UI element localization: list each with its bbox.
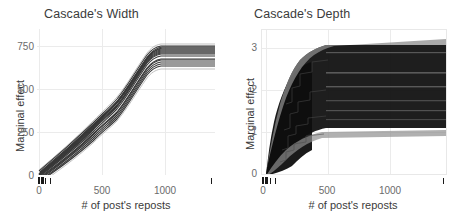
y-tick-label: 250 [6, 127, 34, 138]
x-tick-label: 1000 [154, 185, 176, 196]
y-tick-label: 750 [6, 41, 34, 52]
panel-cascade-depth: Cascade's Depth Marginal effect 0 1 2 3 [232, 0, 465, 221]
y-tick-label: 3 [237, 42, 257, 53]
rug-tick [270, 178, 271, 184]
x-tick-label: 1000 [379, 185, 401, 196]
rug-tick [50, 178, 51, 184]
x-axis-label-depth: # of post's reposts [260, 199, 446, 211]
y-tick-label: 500 [6, 84, 34, 95]
plot-area-width [37, 29, 215, 175]
rug-tick [443, 178, 444, 184]
rug-plot-depth [261, 174, 447, 184]
y-tick-label: 2 [237, 84, 257, 95]
panel-title-width: Cascade's Width [44, 7, 139, 21]
marginal-effect-curves-depth [262, 30, 447, 175]
marginal-effects-figure: Cascade's Width Marginal effect 0 250 50… [0, 0, 465, 221]
rug-tick [275, 178, 276, 184]
rug-tick [262, 177, 264, 184]
x-tick-label: 0 [260, 185, 266, 196]
rug-tick [211, 178, 212, 184]
marginal-effect-curves-width [37, 29, 215, 175]
x-tick-label: 500 [319, 185, 336, 196]
y-tick-label: 0 [237, 168, 257, 179]
x-tick-label: 0 [36, 185, 42, 196]
rug-tick [45, 178, 46, 184]
panel-cascade-width: Cascade's Width Marginal effect 0 250 50… [0, 0, 232, 221]
rug-plot-width [37, 174, 215, 184]
panel-title-depth: Cascade's Depth [254, 7, 350, 21]
rug-tick [38, 177, 40, 184]
y-tick-label: 1 [237, 126, 257, 137]
plot-area-depth [261, 29, 447, 175]
x-axis-label-width: # of post's reposts [36, 199, 216, 211]
y-tick-label: 0 [6, 170, 34, 181]
rug-tick [41, 177, 44, 184]
rug-tick [265, 177, 268, 184]
x-tick-label: 500 [94, 185, 111, 196]
